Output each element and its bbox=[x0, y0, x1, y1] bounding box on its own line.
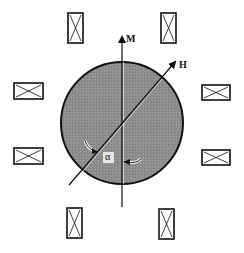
coil-right-upper bbox=[202, 85, 230, 100]
coil-bottom-left bbox=[67, 208, 82, 238]
coil-top-left bbox=[68, 13, 83, 43]
angle-label: α bbox=[105, 151, 110, 162]
coil-bottom-right bbox=[159, 209, 174, 239]
coil-left-lower bbox=[14, 148, 43, 164]
magnetization-label: M bbox=[126, 33, 135, 44]
diagram-canvas bbox=[0, 0, 244, 253]
coil-left-upper bbox=[14, 83, 43, 99]
coil-right-lower bbox=[202, 150, 230, 165]
coil-top-right bbox=[161, 13, 176, 43]
field-label: H bbox=[179, 59, 187, 70]
